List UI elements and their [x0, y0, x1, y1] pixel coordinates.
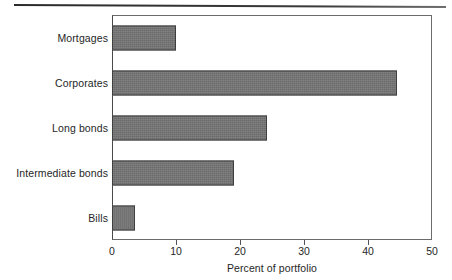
category-label-long-bonds: Long bonds [0, 123, 108, 134]
bar-band [112, 105, 432, 150]
bar-bills[interactable] [112, 205, 135, 230]
bar-corporates[interactable] [112, 70, 397, 95]
x-axis-title: Percent of portfolio [112, 262, 432, 274]
top-divider-rule [14, 4, 446, 8]
x-tick-label: 20 [220, 246, 260, 257]
bar-band [112, 195, 432, 240]
bar-long-bonds[interactable] [112, 115, 267, 140]
x-tick-label: 50 [412, 246, 452, 257]
bar-mortgages[interactable] [112, 25, 176, 50]
x-tick-label: 30 [284, 246, 324, 257]
bar-band [112, 15, 432, 60]
category-label-intermediate-bonds: Intermediate bonds [0, 168, 108, 179]
category-label-bills: Bills [0, 213, 108, 224]
bar-band [112, 150, 432, 195]
category-label-corporates: Corporates [0, 78, 108, 89]
category-label-mortgages: Mortgages [0, 33, 108, 44]
x-tick-label: 40 [348, 246, 388, 257]
bar-chart-plot-area [112, 15, 432, 240]
x-tick-label: 0 [92, 246, 132, 257]
bar-intermediate-bonds[interactable] [112, 160, 234, 185]
x-tick-label: 10 [156, 246, 196, 257]
bar-band [112, 60, 432, 105]
